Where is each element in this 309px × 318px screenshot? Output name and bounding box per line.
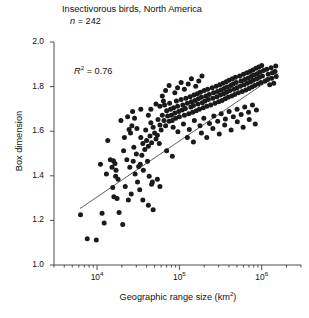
data-point xyxy=(157,104,162,109)
data-point xyxy=(104,172,109,177)
data-point xyxy=(110,165,115,170)
data-point xyxy=(206,97,211,102)
data-point xyxy=(117,210,122,215)
r-squared-value: = 0.76 xyxy=(87,66,113,76)
data-point xyxy=(134,151,139,156)
data-point xyxy=(259,63,264,68)
data-point xyxy=(138,135,143,140)
data-point xyxy=(138,162,143,167)
data-point xyxy=(143,128,148,133)
scatter-plot-canvas xyxy=(0,0,309,318)
data-point xyxy=(235,119,240,124)
data-point xyxy=(274,74,279,79)
data-point xyxy=(199,95,204,100)
data-point xyxy=(254,108,259,113)
data-point xyxy=(182,113,187,118)
data-point xyxy=(132,116,137,121)
data-point xyxy=(155,133,160,138)
data-point xyxy=(179,97,184,102)
data-point xyxy=(146,113,151,118)
data-point xyxy=(131,145,136,150)
data-point xyxy=(195,101,200,106)
data-point xyxy=(146,203,151,208)
data-point xyxy=(192,118,197,123)
data-point xyxy=(159,128,164,133)
data-point xyxy=(118,118,123,123)
data-point xyxy=(127,127,132,132)
x-tick-label: 105 xyxy=(164,272,194,282)
data-point xyxy=(229,128,234,133)
data-point xyxy=(102,221,107,226)
data-point xyxy=(273,64,278,69)
r-squared-exponent: 2 xyxy=(81,64,84,71)
data-point xyxy=(191,139,196,144)
data-point xyxy=(137,187,142,192)
data-point xyxy=(78,212,83,217)
r-squared-symbol: R xyxy=(74,66,81,76)
data-point xyxy=(234,80,239,85)
data-point xyxy=(219,111,224,116)
data-point xyxy=(161,99,166,104)
data-point xyxy=(179,80,184,85)
data-point xyxy=(223,116,228,121)
data-point xyxy=(239,112,244,117)
data-point xyxy=(163,88,168,93)
data-point xyxy=(269,65,274,70)
data-point xyxy=(231,114,236,119)
data-point xyxy=(149,140,154,145)
data-point xyxy=(167,101,172,106)
data-point xyxy=(170,154,175,159)
data-point xyxy=(151,207,156,212)
data-point xyxy=(147,174,152,179)
data-point xyxy=(172,90,177,95)
data-point xyxy=(204,135,209,140)
y-tick-label: 2.0 xyxy=(20,36,44,46)
data-point xyxy=(235,107,240,112)
data-point xyxy=(167,83,172,88)
r-squared-annotation: R2 = 0.76 xyxy=(74,66,112,76)
data-point xyxy=(181,122,186,127)
data-point xyxy=(115,196,120,201)
data-point xyxy=(171,125,176,130)
data-point xyxy=(198,123,203,128)
data-point xyxy=(156,117,161,122)
x-axis-label-exponent: 2 xyxy=(230,290,233,297)
data-point xyxy=(124,157,129,162)
data-point xyxy=(116,177,121,182)
data-point xyxy=(196,79,201,84)
data-point xyxy=(133,172,138,177)
data-point xyxy=(186,81,191,86)
data-point xyxy=(175,85,180,90)
data-point xyxy=(138,107,143,112)
data-point xyxy=(199,130,204,135)
data-point xyxy=(177,114,182,119)
data-point xyxy=(175,104,180,109)
data-point xyxy=(148,107,153,112)
data-point xyxy=(140,197,145,202)
data-point xyxy=(127,165,132,170)
data-point xyxy=(201,116,206,121)
data-point xyxy=(164,148,169,153)
data-point xyxy=(160,93,165,98)
data-point xyxy=(215,119,220,124)
figure-container: Insectivorous birds, North America n = 2… xyxy=(0,0,309,318)
data-point xyxy=(260,73,265,78)
data-point xyxy=(247,117,252,122)
data-point xyxy=(139,153,144,158)
data-point xyxy=(145,159,150,164)
data-point xyxy=(134,126,139,131)
data-point xyxy=(199,73,204,78)
data-point xyxy=(193,84,198,89)
data-point xyxy=(148,120,153,125)
data-points-group xyxy=(78,63,279,243)
data-point xyxy=(189,76,194,81)
y-axis-label: Box dimension xyxy=(14,91,24,191)
data-point xyxy=(187,127,192,132)
data-point xyxy=(98,162,103,167)
data-point xyxy=(105,138,110,143)
data-point xyxy=(182,87,187,92)
data-point xyxy=(160,113,165,118)
data-point xyxy=(183,106,188,111)
data-point xyxy=(126,197,131,202)
data-point xyxy=(144,138,149,143)
